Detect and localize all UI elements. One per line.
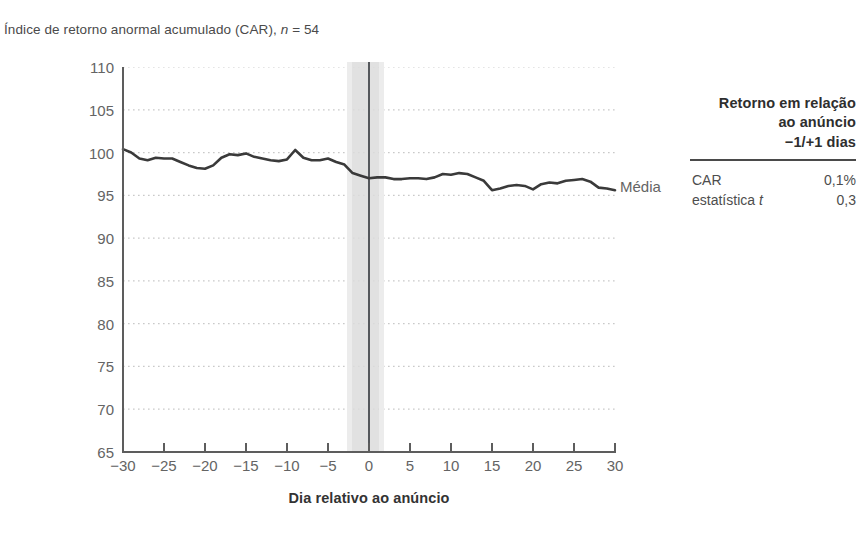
x-axis-tick-−25: −25 <box>141 458 187 473</box>
summary-table-divider <box>690 159 856 161</box>
x-axis-tick-mark-0 <box>368 443 370 452</box>
y-axis-tick-100: 100 <box>70 146 114 161</box>
chart-figure: Índice de retorno anormal acumulado (CAR… <box>0 0 866 536</box>
x-axis-tick-mark-−20 <box>204 443 206 452</box>
x-axis-tick-−10: −10 <box>264 458 310 473</box>
summary-table-header-line3: −1/+1 dias <box>676 133 856 152</box>
plot-area <box>123 67 615 452</box>
series-label-media: Média <box>620 178 661 195</box>
series-line-media <box>123 67 615 452</box>
x-axis-tick-30: 30 <box>592 458 638 473</box>
x-axis-title: Dia relativo ao anúncio <box>123 490 615 506</box>
chart-title-text: Índice de retorno anormal acumulado (CAR… <box>4 22 281 37</box>
x-axis-tick-mark-5 <box>409 443 411 452</box>
summary-table-header-line2: ao anúncio <box>676 113 856 132</box>
summary-table-header-line1: Retorno em relação <box>676 94 856 113</box>
x-axis-tick-mark-30 <box>614 443 616 452</box>
summary-table-rows: CAR0,1%estatística t0,3 <box>676 170 856 211</box>
table-row: CAR0,1% <box>676 170 856 190</box>
x-axis-tick-−5: −5 <box>305 458 351 473</box>
table-row: estatística t0,3 <box>676 190 856 210</box>
x-axis-tick-−30: −30 <box>100 458 146 473</box>
y-axis-tick-70: 70 <box>70 402 114 417</box>
y-axis-line <box>122 67 124 453</box>
table-row-label-italic: t <box>759 192 763 208</box>
x-axis-tick-mark-10 <box>450 443 452 452</box>
x-axis-tick-10: 10 <box>428 458 474 473</box>
x-axis-tick-15: 15 <box>469 458 515 473</box>
x-axis-tick-5: 5 <box>387 458 433 473</box>
y-axis-tick-110: 110 <box>70 60 114 75</box>
x-axis-tick-25: 25 <box>551 458 597 473</box>
x-axis-tick-mark-−10 <box>286 443 288 452</box>
x-axis-tick-−20: −20 <box>182 458 228 473</box>
y-axis-tick-85: 85 <box>70 274 114 289</box>
x-axis-tick-mark-25 <box>573 443 575 452</box>
x-axis-tick-0: 0 <box>346 458 392 473</box>
y-axis-tick-80: 80 <box>70 317 114 332</box>
table-row-label: CAR <box>692 170 722 190</box>
chart-title-n-value: = 54 <box>288 22 319 37</box>
x-axis-tick-20: 20 <box>510 458 556 473</box>
y-axis-tick-105: 105 <box>70 103 114 118</box>
x-axis-tick-mark-20 <box>532 443 534 452</box>
table-row-value: 0,3 <box>837 190 856 210</box>
summary-table: Retorno em relação ao anúncio −1/+1 dias… <box>676 94 856 210</box>
y-axis-tick-90: 90 <box>70 231 114 246</box>
y-axis-tick-75: 75 <box>70 359 114 374</box>
table-row-label: estatística t <box>692 190 763 210</box>
x-axis-tick-mark-15 <box>491 443 493 452</box>
table-row-value: 0,1% <box>824 170 856 190</box>
x-axis-tick-mark-−5 <box>327 443 329 452</box>
x-axis-tick-−15: −15 <box>223 458 269 473</box>
y-axis-tick-95: 95 <box>70 188 114 203</box>
x-axis-tick-mark-−30 <box>122 443 124 452</box>
summary-table-header: Retorno em relação ao anúncio −1/+1 dias <box>676 94 856 152</box>
page-title: Índice de retorno anormal acumulado (CAR… <box>4 22 319 37</box>
x-axis-tick-mark-−15 <box>245 443 247 452</box>
x-axis-tick-mark-−25 <box>163 443 165 452</box>
